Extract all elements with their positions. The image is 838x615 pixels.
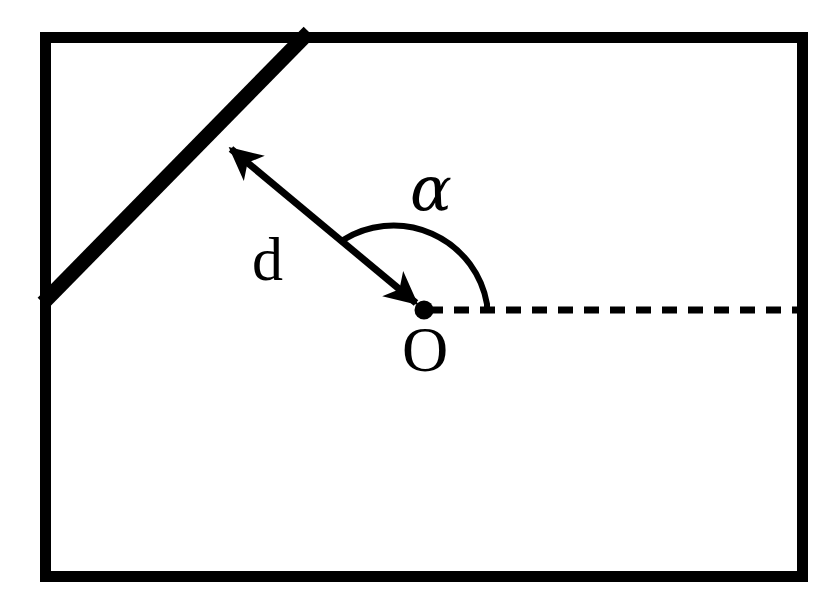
distance-label: d — [252, 228, 283, 290]
diagram-canvas: d α O — [0, 0, 838, 615]
origin-label: O — [402, 318, 448, 382]
geometry-diagram — [0, 0, 838, 615]
angle-label: α — [410, 158, 452, 220]
